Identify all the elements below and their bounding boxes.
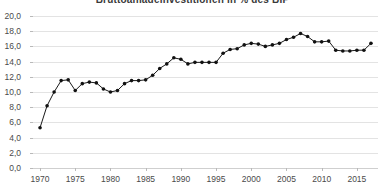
x-tick-label: 1995 xyxy=(196,174,236,184)
x-tick-label: 1980 xyxy=(90,174,130,184)
x-tick-mark xyxy=(286,168,287,171)
x-tick-label: 2015 xyxy=(337,174,377,184)
data-point xyxy=(221,51,225,55)
data-point xyxy=(158,67,162,71)
data-point xyxy=(52,90,56,94)
data-point xyxy=(341,49,345,53)
data-point xyxy=(264,45,268,49)
data-point xyxy=(292,35,296,39)
x-tick-label: 2000 xyxy=(231,174,271,184)
data-point xyxy=(207,61,211,65)
series-layer xyxy=(0,0,385,196)
data-point xyxy=(102,87,106,91)
data-point xyxy=(80,82,84,86)
data-point xyxy=(130,79,134,83)
data-point xyxy=(123,82,127,86)
series-markers xyxy=(38,32,373,130)
x-tick-mark xyxy=(146,168,147,171)
data-point xyxy=(355,48,359,52)
data-point xyxy=(151,73,155,77)
data-point xyxy=(242,43,246,47)
x-tick-mark xyxy=(75,168,76,171)
data-point xyxy=(271,43,275,47)
data-point xyxy=(313,40,317,44)
data-point xyxy=(257,42,261,46)
x-tick-mark xyxy=(357,168,358,171)
x-tick-label: 1985 xyxy=(126,174,166,184)
x-tick-label: 2005 xyxy=(266,174,306,184)
data-point xyxy=(200,61,204,65)
data-point xyxy=(137,79,141,83)
data-point xyxy=(116,89,120,93)
x-tick-label: 1990 xyxy=(161,174,201,184)
data-point xyxy=(320,40,324,44)
data-point xyxy=(334,48,338,52)
data-point xyxy=(249,42,253,46)
x-tick-mark xyxy=(251,168,252,171)
data-point xyxy=(214,61,218,65)
data-point xyxy=(348,49,352,53)
x-tick-mark xyxy=(181,168,182,171)
data-point xyxy=(109,90,113,94)
x-tick-mark xyxy=(40,168,41,171)
data-point xyxy=(59,79,63,83)
data-point xyxy=(327,39,331,43)
data-point xyxy=(144,78,148,82)
x-tick-mark xyxy=(110,168,111,171)
line-chart: Bruttoanlageinvestitionen in % des BIP 0… xyxy=(0,0,385,196)
data-point xyxy=(278,42,282,46)
data-point xyxy=(66,78,70,82)
data-point xyxy=(88,80,92,84)
data-point xyxy=(228,48,232,52)
x-tick-mark xyxy=(216,168,217,171)
data-point xyxy=(369,42,373,46)
x-tick-label: 1970 xyxy=(20,174,60,184)
data-point xyxy=(299,32,303,36)
data-point xyxy=(306,35,310,39)
data-point xyxy=(193,61,197,65)
x-tick-label: 2010 xyxy=(302,174,342,184)
data-point xyxy=(179,58,183,62)
data-point xyxy=(165,62,169,66)
data-point xyxy=(73,89,77,93)
data-point xyxy=(45,104,49,108)
x-tick-mark xyxy=(322,168,323,171)
data-point xyxy=(362,48,366,52)
data-point xyxy=(172,56,176,60)
x-tick-label: 1975 xyxy=(55,174,95,184)
data-point xyxy=(38,126,42,130)
data-point xyxy=(285,38,289,42)
data-point xyxy=(235,47,239,51)
data-point xyxy=(95,81,99,85)
data-point xyxy=(186,62,190,66)
